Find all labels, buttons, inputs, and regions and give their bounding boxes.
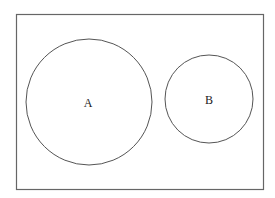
venn-diagram: A B bbox=[0, 0, 275, 198]
universe-rectangle bbox=[17, 15, 264, 190]
set-a-label: A bbox=[84, 96, 93, 110]
set-b-label: B bbox=[205, 93, 213, 107]
